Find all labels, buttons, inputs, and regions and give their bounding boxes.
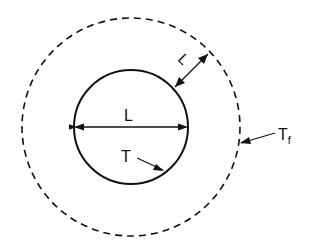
diameter-dimension-arrow (74, 124, 188, 131)
diagram-canvas: L L T Tf (0, 0, 309, 246)
fluid-temp-label: Tf (278, 126, 292, 146)
surface-temp-leader (137, 158, 164, 171)
fluid-temp-leader (240, 133, 275, 144)
fluid-temp-main: T (278, 126, 288, 143)
fluid-temp-subscript: f (288, 134, 292, 146)
diameter-label: L (124, 107, 133, 124)
surface-temp-label: T (121, 148, 131, 165)
gap-label: L (175, 50, 193, 68)
